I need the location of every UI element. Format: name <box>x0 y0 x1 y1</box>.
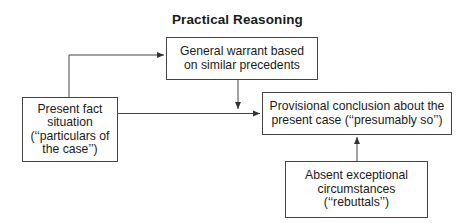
facts-line-2: situation <box>30 116 109 130</box>
rebuttals-line-1: Absent exceptional <box>305 169 408 183</box>
conclusion-line-2: present case (‘‘presumably so’’) <box>270 114 445 128</box>
arrow-facts-to-warrant <box>69 55 164 97</box>
conclusion-box: Provisional conclusion about the present… <box>262 92 452 135</box>
conclusion-line-1: Provisional conclusion about the <box>270 100 445 114</box>
warrant-line-1: General warrant based <box>180 45 304 59</box>
rebuttals-line-2: circumstances <box>305 183 408 197</box>
facts-line-3: (‘‘particulars of <box>30 130 109 144</box>
facts-line-4: the case’’) <box>30 143 109 157</box>
facts-box: Present fact situation (‘‘particulars of… <box>22 97 118 162</box>
warrant-box: General warrant based on similar precede… <box>166 37 318 80</box>
rebuttals-box: Absent exceptional circumstances (‘‘rebu… <box>285 161 428 218</box>
warrant-line-2: on similar precedents <box>180 59 304 73</box>
rebuttals-line-3: (‘‘rebuttals’’) <box>305 196 408 210</box>
practical-reasoning-diagram: Practical Reasoning General warrant base… <box>0 0 475 223</box>
diagram-title: Practical Reasoning <box>0 12 475 27</box>
facts-line-1: Present fact <box>30 103 109 117</box>
